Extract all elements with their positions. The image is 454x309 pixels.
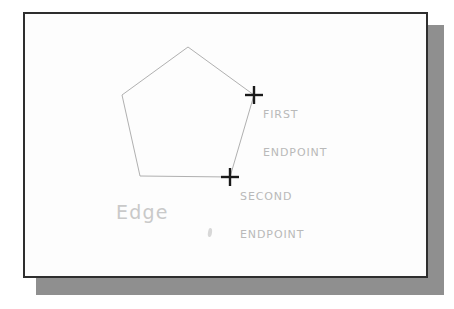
second-endpoint-label-line-1: SECOND bbox=[240, 191, 304, 204]
first-endpoint-label-line-1: FIRST bbox=[263, 109, 327, 122]
second-endpoint-label: SECOND ENDPOINT bbox=[240, 166, 304, 266]
drawing-canvas bbox=[25, 14, 426, 276]
second-endpoint-label-line-2: ENDPOINT bbox=[240, 229, 304, 242]
edge-label: Edge bbox=[116, 201, 169, 223]
first-endpoint-label-line-2: ENDPOINT bbox=[263, 147, 327, 160]
illustration-card bbox=[23, 12, 428, 278]
figure-root: FIRST ENDPOINT SECOND ENDPOINT Edge bbox=[0, 0, 454, 309]
